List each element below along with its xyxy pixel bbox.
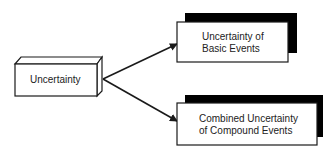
basic-events-label-line1: Uncertainty of — [202, 31, 264, 43]
source-label: Uncertainty — [30, 74, 81, 86]
compound-events-label-line2: of Compound Events — [199, 125, 292, 137]
arrow-to-compound-events — [103, 79, 177, 121]
basic-events-label-line2: Basic Events — [202, 43, 260, 55]
box-side-face — [97, 57, 102, 96]
box-top-face — [15, 57, 102, 64]
compound-events-label-line1: Combined Uncertainty — [199, 113, 298, 125]
arrow-to-basic-events — [103, 44, 177, 79]
